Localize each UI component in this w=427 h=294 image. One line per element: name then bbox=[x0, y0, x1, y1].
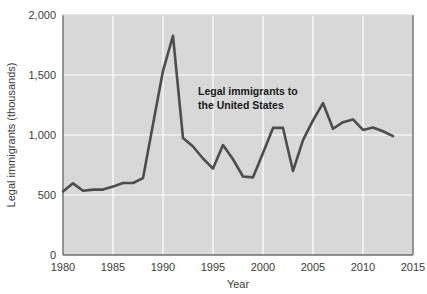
y-tick-label: 1,000 bbox=[28, 129, 56, 141]
y-tick-label: 2,000 bbox=[28, 9, 56, 21]
x-axis-title: Year bbox=[227, 278, 250, 290]
annotation-line-2: the United States bbox=[198, 99, 284, 111]
x-tick-label: 2005 bbox=[301, 261, 325, 273]
x-tick-label: 1990 bbox=[151, 261, 175, 273]
y-axis-title: Legal immigrants (thousands) bbox=[5, 63, 17, 208]
x-tick-label: 1980 bbox=[51, 261, 75, 273]
y-tick-label: 500 bbox=[38, 189, 56, 201]
x-tick-label: 1995 bbox=[201, 261, 225, 273]
x-tick-label: 2015 bbox=[401, 261, 425, 273]
y-tick-label: 0 bbox=[50, 249, 56, 261]
chart-figure: 05001,0001,5002,000 19801985199019952000… bbox=[0, 0, 427, 294]
y-tick-label: 1,500 bbox=[28, 69, 56, 81]
immigration-line-chart: 05001,0001,5002,000 19801985199019952000… bbox=[0, 0, 427, 294]
x-tick-label: 1985 bbox=[101, 261, 125, 273]
x-tick-label: 2010 bbox=[351, 261, 375, 273]
annotation-line-1: Legal immigrants to bbox=[198, 85, 298, 97]
x-tick-label: 2000 bbox=[251, 261, 275, 273]
